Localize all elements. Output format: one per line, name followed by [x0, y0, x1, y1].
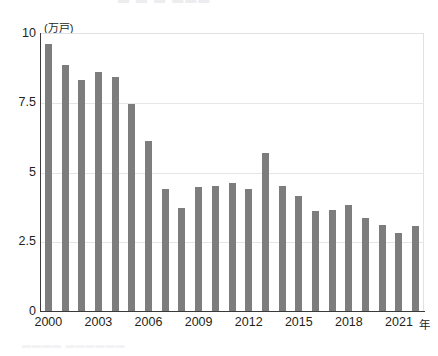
bar-2010	[212, 186, 219, 311]
bar-2001	[62, 65, 69, 311]
bar-2012	[245, 189, 252, 311]
x-axis-unit-label: 年	[419, 316, 430, 332]
bar-2003	[95, 72, 102, 311]
bar-2017	[329, 210, 336, 311]
bar-2000	[45, 44, 52, 311]
y-tick-label-10: 10	[2, 27, 36, 39]
bar-2013	[262, 153, 269, 311]
bar-2022	[412, 226, 419, 311]
x-tick-label-2021: 2021	[385, 315, 413, 329]
y-tick-label-5: 5	[2, 166, 36, 178]
bar-2002	[78, 80, 85, 311]
bottom-clipped-text: ▬▬▬▬ ▬▬▬▬▬▬	[22, 342, 126, 350]
bar-2006	[145, 141, 152, 311]
bar-2005	[128, 104, 135, 311]
bar-2015	[295, 196, 302, 311]
bar-2020	[379, 225, 386, 311]
bar-2004	[112, 77, 119, 311]
bar-2011	[229, 183, 236, 311]
x-tick-label-2003: 2003	[85, 315, 113, 329]
bar-2009	[195, 187, 202, 311]
x-axis-line	[40, 311, 425, 312]
x-tick-label-2015: 2015	[285, 315, 313, 329]
x-tick-label-2009: 2009	[185, 315, 213, 329]
bar-2016	[312, 211, 319, 311]
bar-2018	[345, 205, 352, 311]
x-tick-label-2018: 2018	[335, 315, 363, 329]
bar-2014	[279, 186, 286, 311]
y-tick-label-7point5: 7.5	[2, 96, 36, 108]
bar-series	[40, 33, 424, 311]
bar-2008	[178, 208, 185, 311]
x-tick-label-2012: 2012	[235, 315, 263, 329]
bar-2021	[395, 233, 402, 311]
bar-chart: (万戸) 10 7.5 5 2.5 0 20002003200620092012…	[0, 0, 438, 356]
bar-2007	[162, 189, 169, 311]
y-tick-label-0: 0	[2, 305, 36, 317]
bar-2019	[362, 218, 369, 311]
x-tick-label-2000: 2000	[34, 315, 62, 329]
bottom-clipped-artifact: ▬▬▬▬ ▬▬▬▬▬▬	[0, 342, 438, 356]
y-tick-label-2point5: 2.5	[2, 235, 36, 247]
x-tick-label-2006: 2006	[135, 315, 163, 329]
